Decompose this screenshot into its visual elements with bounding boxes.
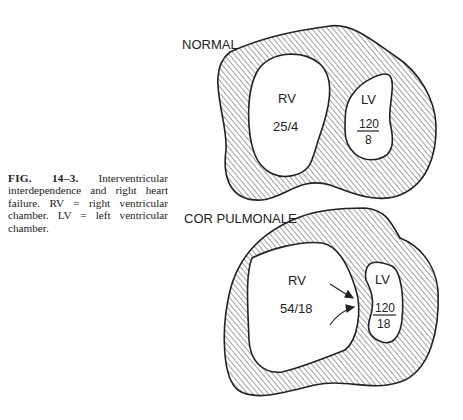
lv-systolic-normal: 120 (359, 117, 379, 131)
figure-caption: FIG. 14–3. Interventricular interdepende… (8, 172, 168, 234)
panel-cor-pulmonale: COR PULMONALE RV 54/18 LV 120 18 (184, 208, 438, 396)
panel-normal: NORMAL RV 25/4 LV 120 8 (182, 26, 436, 200)
rv-label-normal: RV (278, 91, 296, 106)
lv-systolic-cor-pulmonale: 120 (375, 301, 395, 315)
lv-label-cor-pulmonale: LV (375, 272, 390, 287)
rv-pressure-normal: 25/4 (273, 119, 298, 134)
lv-diastolic-cor-pulmonale: 18 (377, 317, 391, 331)
lv-diastolic-normal: 8 (365, 133, 372, 147)
lv-label-normal: LV (361, 92, 376, 107)
panel-title-normal: NORMAL (182, 37, 238, 52)
rv-label-cor-pulmonale: RV (288, 273, 306, 288)
figure-label: FIG. 14–3. (8, 172, 79, 184)
panel-title-cor-pulmonale: COR PULMONALE (184, 211, 297, 226)
rv-pressure-cor-pulmonale: 54/18 (280, 301, 313, 316)
